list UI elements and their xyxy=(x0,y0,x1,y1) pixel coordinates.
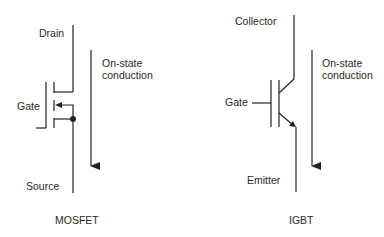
mosfet-conduction-label-line1: On-state xyxy=(102,57,142,69)
igbt-symbol xyxy=(252,15,296,192)
mosfet-body-arrow-icon xyxy=(55,102,62,108)
mosfet-gate-label: Gate xyxy=(17,100,40,112)
igbt-conduction-label-line1: On-state xyxy=(322,57,362,69)
mosfet-junction-dot xyxy=(70,116,76,122)
mosfet-conduction-label-line2: conduction xyxy=(102,69,153,81)
igbt-caption: IGBT xyxy=(289,214,314,226)
igbt-collector-label: Collector xyxy=(235,15,276,27)
igbt-collector-diagonal xyxy=(279,79,294,93)
igbt-gate-label: Gate xyxy=(225,96,248,108)
igbt-conduction-label-line2: conduction xyxy=(322,69,373,81)
mosfet-source-label: Source xyxy=(26,180,59,192)
mosfet-drain-label: Drain xyxy=(39,27,64,39)
mosfet-symbol xyxy=(36,25,76,193)
mosfet-caption: MOSFET xyxy=(55,214,99,226)
igbt-emitter-label: Emitter xyxy=(247,174,280,186)
